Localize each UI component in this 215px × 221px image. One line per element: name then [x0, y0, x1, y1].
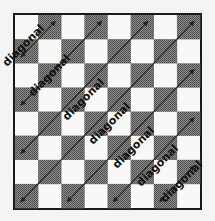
diagonals-diagram: diagonaldiagonaldiagonaldiagonaldiagonal… [0, 0, 215, 221]
